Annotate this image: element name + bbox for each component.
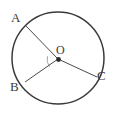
vertex-label-a: A — [11, 11, 20, 24]
center-point-dot — [56, 57, 61, 62]
vertex-label-b: B — [10, 80, 19, 93]
vertex-label-c: C — [97, 69, 106, 82]
center-label-o: O — [56, 44, 65, 57]
geometry-figure: A B C O — [0, 0, 115, 117]
